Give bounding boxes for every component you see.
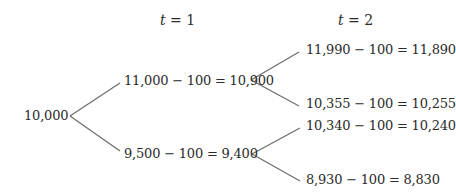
node-root: 10,000 [24,108,68,124]
node-t2-up-down: 10,355 − 100 = 10,255 [306,96,456,112]
branch-down-down [252,154,300,181]
time-value: = 2 [344,12,374,28]
node-t1-up: 11,000 − 100 = 10,900 [124,73,274,89]
branch-root-down [70,116,120,151]
time-label-t1: t = 1 [160,12,195,28]
branch-root-up [70,83,120,116]
node-t1-down: 9,500 − 100 = 9,400 [124,146,258,162]
time-label-t2: t = 2 [338,12,373,28]
node-t2-up-up: 11,990 − 100 = 11,890 [306,42,456,58]
node-t2-down-up: 10,340 − 100 = 10,240 [306,118,456,134]
time-value: = 1 [166,12,196,28]
branch-down-up [252,128,300,154]
node-t2-down-down: 8,930 − 100 = 8,830 [306,172,440,188]
